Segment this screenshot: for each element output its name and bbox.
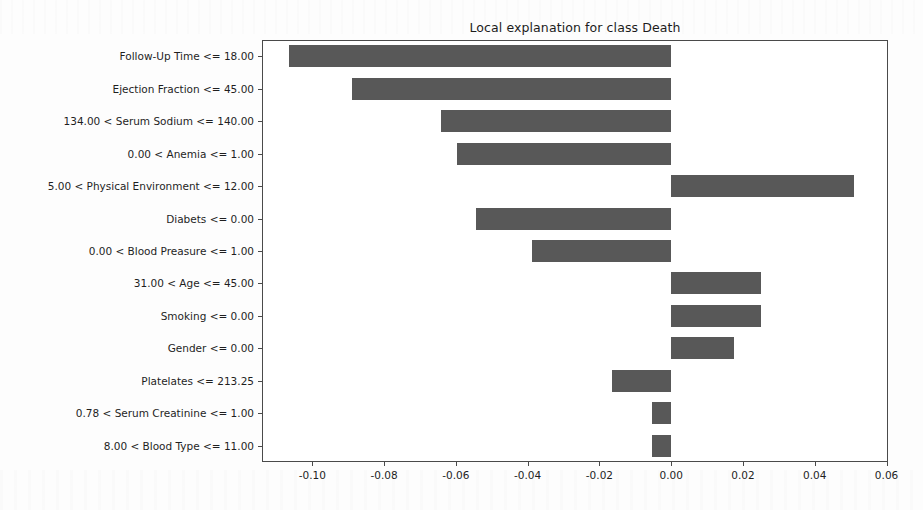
y-axis-tick-label: 0.00 < Blood Preasure <= 1.00 xyxy=(0,245,254,257)
y-axis-tick-label: Smoking <= 0.00 xyxy=(0,310,254,322)
y-axis-tick-mark xyxy=(258,413,262,414)
chart-screenshot: Local explanation for class Death Follow… xyxy=(0,0,923,510)
bar xyxy=(652,435,671,457)
chart-title: Local explanation for class Death xyxy=(262,20,888,35)
bar xyxy=(476,208,671,230)
bar xyxy=(289,45,672,67)
bar xyxy=(671,337,734,359)
y-axis-tick-mark xyxy=(258,121,262,122)
x-axis-tick-mark xyxy=(887,462,888,466)
x-axis-tick-label: 0.02 xyxy=(731,469,754,481)
bar xyxy=(671,272,761,294)
bar xyxy=(671,175,854,197)
x-axis-tick-label: -0.08 xyxy=(370,469,397,481)
y-axis-tick-label: Platelates <= 213.25 xyxy=(0,375,254,387)
x-axis-tick-mark xyxy=(312,462,313,466)
x-axis-tick-label: -0.04 xyxy=(514,469,541,481)
y-axis-tick-label: Ejection Fraction <= 45.00 xyxy=(0,83,254,95)
y-axis-tick-label: 134.00 < Serum Sodium <= 140.00 xyxy=(0,115,254,127)
y-axis-tick-label: 5.00 < Physical Environment <= 12.00 xyxy=(0,180,254,192)
x-axis-tick-mark xyxy=(384,462,385,466)
y-axis-tick-label: Diabets <= 0.00 xyxy=(0,213,254,225)
x-axis-tick-label: -0.02 xyxy=(586,469,613,481)
x-axis-tick-label: -0.06 xyxy=(442,469,469,481)
y-axis-tick-mark xyxy=(258,316,262,317)
y-axis-tick-mark xyxy=(258,219,262,220)
y-axis-tick-label: 8.00 < Blood Type <= 11.00 xyxy=(0,440,254,452)
y-axis-tick-label: 0.00 < Anemia <= 1.00 xyxy=(0,148,254,160)
y-axis-tick-mark xyxy=(258,446,262,447)
x-axis-tick-mark xyxy=(599,462,600,466)
y-axis-tick-mark xyxy=(258,186,262,187)
y-axis-tick-mark xyxy=(258,381,262,382)
bar xyxy=(457,143,672,165)
bar xyxy=(532,240,672,262)
bar xyxy=(671,305,761,327)
bar-series xyxy=(262,40,888,462)
x-axis-tick-mark xyxy=(456,462,457,466)
bar xyxy=(652,402,671,424)
x-axis-tick-mark xyxy=(743,462,744,466)
x-axis-tick-label: 0.06 xyxy=(875,469,898,481)
x-axis-tick-mark xyxy=(671,462,672,466)
x-axis-tick-mark xyxy=(815,462,816,466)
bar xyxy=(612,370,671,392)
x-axis-tick-label: 0.00 xyxy=(659,469,682,481)
x-axis-tick-label: 0.04 xyxy=(803,469,826,481)
y-axis-tick-mark xyxy=(258,251,262,252)
y-axis-tick-mark xyxy=(258,348,262,349)
y-axis-tick-mark xyxy=(258,56,262,57)
y-axis-tick-label: 31.00 < Age <= 45.00 xyxy=(0,277,254,289)
x-axis-tick-label: -0.10 xyxy=(299,469,326,481)
y-axis-tick-label: 0.78 < Serum Creatinine <= 1.00 xyxy=(0,407,254,419)
y-axis-labels: Follow-Up Time <= 18.00Ejection Fraction… xyxy=(0,40,254,462)
x-axis-tick-mark xyxy=(528,462,529,466)
bar xyxy=(352,78,671,100)
y-axis-tick-label: Follow-Up Time <= 18.00 xyxy=(0,50,254,62)
y-axis-tick-label: Gender <= 0.00 xyxy=(0,342,254,354)
y-axis-tick-mark xyxy=(258,283,262,284)
bar xyxy=(441,110,671,132)
y-axis-tick-mark xyxy=(258,154,262,155)
y-axis-tick-mark xyxy=(258,89,262,90)
